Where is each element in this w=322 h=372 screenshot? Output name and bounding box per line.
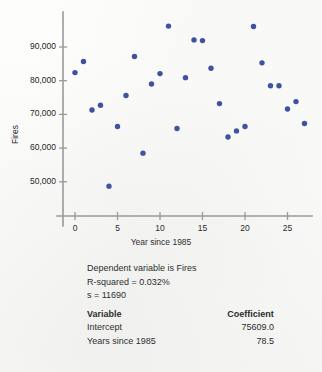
plot-area: Fires Year since 1985 50,00060,00070,000… xyxy=(0,0,322,245)
x-tick-label: 0 xyxy=(60,223,90,233)
data-point xyxy=(183,75,188,80)
x-tick-label: 25 xyxy=(273,223,303,233)
data-point xyxy=(293,99,298,104)
y-tick-label: 80,000 xyxy=(8,75,56,85)
y-tick-label: 70,000 xyxy=(8,108,56,118)
table-header-row: Variable Coefficient xyxy=(87,308,302,322)
data-point xyxy=(259,60,264,65)
cell-coefficient: 78.5 xyxy=(175,335,302,349)
data-point xyxy=(98,103,103,108)
cell-variable: Years since 1985 xyxy=(87,335,175,349)
x-axis-title: Year since 1985 xyxy=(0,237,322,247)
column-header-variable: Variable xyxy=(87,308,175,322)
cell-variable: Intercept xyxy=(87,321,175,335)
data-point xyxy=(242,124,247,129)
coefficient-table: Variable Coefficient Intercept75609.0Yea… xyxy=(87,308,302,349)
x-tick-label: 20 xyxy=(230,223,260,233)
data-point xyxy=(174,126,179,131)
data-point xyxy=(285,106,290,111)
data-point xyxy=(217,101,222,106)
data-point xyxy=(302,121,307,126)
data-point xyxy=(132,54,137,59)
table-row: Intercept75609.0 xyxy=(87,321,302,335)
x-tick-label: 5 xyxy=(103,223,133,233)
data-point xyxy=(225,134,230,139)
data-point xyxy=(268,83,273,88)
data-point xyxy=(234,128,239,133)
y-tick-label: 50,000 xyxy=(8,176,56,186)
standard-error-line: s = 11690 xyxy=(87,289,302,303)
data-point xyxy=(149,81,154,86)
data-point xyxy=(115,124,120,129)
data-point xyxy=(251,24,256,29)
column-header-coefficient: Coefficient xyxy=(175,308,302,322)
data-point xyxy=(276,83,281,88)
data-point xyxy=(81,59,86,64)
data-point xyxy=(208,66,213,71)
data-point xyxy=(106,183,111,188)
table-row: Years since 198578.5 xyxy=(87,335,302,349)
plot-canvas xyxy=(0,0,322,245)
cell-coefficient: 75609.0 xyxy=(175,321,302,335)
y-tick-label: 60,000 xyxy=(8,142,56,152)
scatterplot-figure: Fires Year since 1985 50,00060,00070,000… xyxy=(0,0,322,372)
data-point xyxy=(191,37,196,42)
data-point xyxy=(89,107,94,112)
data-point xyxy=(166,23,171,28)
x-tick-label: 15 xyxy=(188,223,218,233)
r-squared-line: R-squared = 0.032% xyxy=(87,276,302,290)
data-point xyxy=(140,150,145,155)
regression-output-block: Dependent variable is Fires R-squared = … xyxy=(87,262,302,349)
data-point xyxy=(72,70,77,75)
data-point xyxy=(123,93,128,98)
data-point xyxy=(157,71,162,76)
x-tick-label: 10 xyxy=(145,223,175,233)
y-tick-label: 90,000 xyxy=(8,41,56,51)
dependent-variable-line: Dependent variable is Fires xyxy=(87,262,302,276)
data-point xyxy=(200,38,205,43)
